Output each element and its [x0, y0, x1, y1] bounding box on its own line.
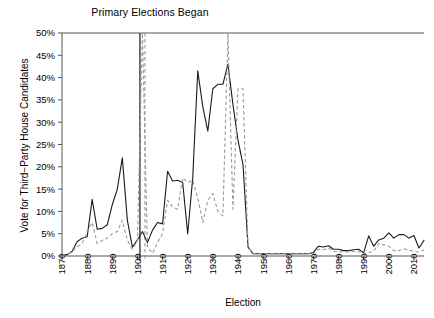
x-tick-label: 1980	[333, 253, 344, 274]
y-tick-label: 20%	[36, 161, 56, 172]
x-tick-label: 1890	[107, 253, 118, 274]
x-tick-label: 1870	[56, 253, 67, 274]
axis-frame	[62, 33, 424, 256]
x-tick-label: 1880	[82, 253, 93, 274]
y-tick-label: 45%	[36, 50, 56, 61]
x-tick-label: 1960	[283, 253, 294, 274]
y-tick-label: 50%	[36, 27, 56, 38]
x-tick-label: 1910	[157, 253, 168, 274]
y-tick-label: 40%	[36, 72, 56, 83]
annotation-layer	[140, 33, 145, 261]
x-tick-label: 1950	[258, 253, 269, 274]
data-series-layer	[62, 33, 424, 255]
x-tick-label: 2010	[408, 253, 419, 274]
y-tick-label: 35%	[36, 94, 56, 105]
x-tick-label: 1920	[182, 253, 193, 274]
y-axis-ticks: 0%5%10%15%20%25%30%35%40%45%50%	[36, 27, 62, 261]
y-tick-label: 10%	[36, 206, 56, 217]
y-tick-label: 30%	[36, 117, 56, 128]
x-tick-label: 1930	[207, 253, 218, 274]
x-tick-label: 2000	[383, 253, 394, 274]
x-tick-label: 1970	[308, 253, 319, 274]
series-line-dashed-series	[62, 33, 424, 255]
x-tick-label: 1900	[132, 253, 143, 274]
x-axis-ticks: 1870188018901900191019201930194019501960…	[56, 253, 419, 274]
y-tick-label: 0%	[41, 250, 55, 261]
x-tick-label: 1940	[232, 253, 243, 274]
y-tick-label: 5%	[41, 228, 55, 239]
plot-area: 0%5%10%15%20%25%30%35%40%45%50% 18701880…	[0, 0, 434, 318]
y-tick-label: 15%	[36, 184, 56, 195]
series-line-solid-series	[62, 64, 424, 255]
chart-figure: Primary Elections Began Vote for Third−P…	[0, 0, 434, 318]
x-tick-label: 1990	[358, 253, 369, 274]
y-tick-label: 25%	[36, 139, 56, 150]
